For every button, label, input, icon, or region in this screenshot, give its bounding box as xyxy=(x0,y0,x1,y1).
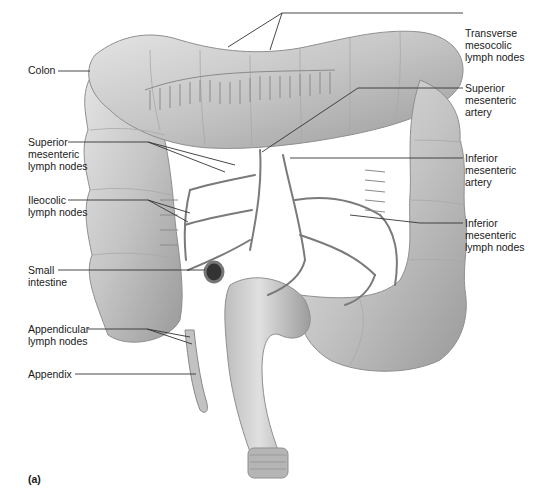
label-colon: Colon xyxy=(28,64,55,76)
anal-canal xyxy=(248,448,288,478)
label-superior-mesenteric-lymph-nodes: Superior mesenteric lymph nodes xyxy=(28,136,88,172)
label-inferior-mesenteric-artery: Inferior mesenteric artery xyxy=(465,152,516,188)
label-superior-mesenteric-artery: Superior mesenteric artery xyxy=(465,82,516,118)
label-appendicular-lymph-nodes: Appendicular lymph nodes xyxy=(28,323,89,347)
label-inferior-mesenteric-lymph-nodes: Inferior mesenteric lymph nodes xyxy=(465,217,525,253)
panel-label: (a) xyxy=(28,473,41,485)
label-appendix: Appendix xyxy=(28,368,72,380)
sigmoid-colon xyxy=(225,278,310,465)
label-transverse-mesocolic-lymph-nodes: Transverse mesocolic lymph nodes xyxy=(465,27,525,63)
colon-lymphatics-figure: Colon Superior mesenteric lymph nodes Il… xyxy=(0,0,552,502)
label-small-intestine: Small intestine xyxy=(28,264,67,288)
label-ileocolic-lymph-nodes: Ileocolic lymph nodes xyxy=(28,194,88,218)
small-intestine-stump xyxy=(205,262,223,282)
